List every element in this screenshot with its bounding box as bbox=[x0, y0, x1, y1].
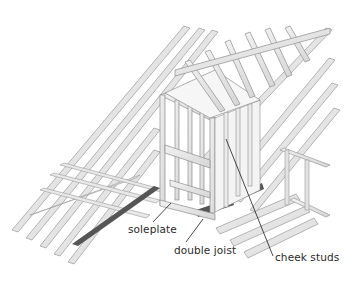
framing-illustration bbox=[0, 0, 353, 285]
cheek-studs-group bbox=[215, 100, 260, 212]
label-cheek-studs: cheek studs bbox=[275, 252, 339, 263]
leader-double-joist bbox=[186, 219, 203, 242]
label-double-joist: double joist bbox=[174, 245, 236, 256]
dormer-framing-diagram: soleplate double joist cheek studs bbox=[0, 0, 353, 285]
label-soleplate: soleplate bbox=[128, 224, 177, 235]
